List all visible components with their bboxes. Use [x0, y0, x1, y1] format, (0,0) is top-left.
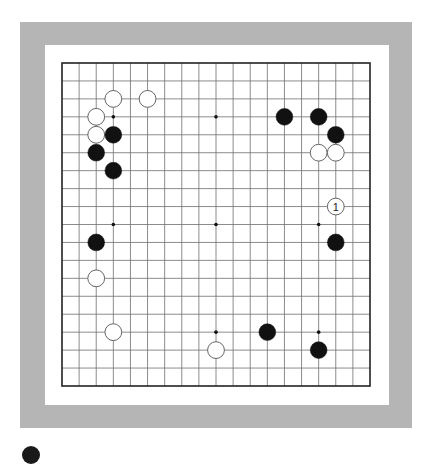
- star-point: [214, 115, 218, 119]
- white-stone: [327, 144, 344, 161]
- black-stone: [259, 324, 276, 341]
- white-stone: [105, 324, 122, 341]
- white-stone: [139, 90, 156, 107]
- star-point: [317, 330, 321, 334]
- black-stone: [310, 108, 327, 125]
- star-point: [112, 223, 116, 227]
- black-stone: [310, 342, 327, 359]
- white-stone: [88, 108, 105, 125]
- move-number-label: 1: [333, 201, 339, 213]
- black-stone: [105, 126, 122, 143]
- star-point: [214, 330, 218, 334]
- white-stone: [88, 126, 105, 143]
- black-stone: [88, 234, 105, 251]
- star-point: [214, 223, 218, 227]
- black-stone: [276, 108, 293, 125]
- black-stone: [327, 234, 344, 251]
- white-stone: [105, 90, 122, 107]
- black-stone: [327, 126, 344, 143]
- white-stone: [88, 270, 105, 287]
- star-point: [317, 223, 321, 227]
- black-stone: [105, 162, 122, 179]
- black-stone: [88, 144, 105, 161]
- black-stone-icon: [22, 446, 40, 464]
- white-stone: 1: [327, 198, 344, 215]
- white-stone: [310, 144, 327, 161]
- star-point: [112, 115, 116, 119]
- white-stone: [208, 342, 225, 359]
